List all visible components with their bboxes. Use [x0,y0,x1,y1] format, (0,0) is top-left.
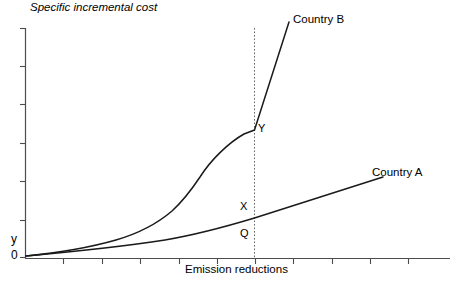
series-label-country-b: Country B [293,14,344,26]
annotation-point-q: Q [240,228,249,239]
y-axis-tick-label-zero: 0 [11,249,18,261]
x-axis-label: Emission reductions [185,264,288,276]
chart-title: Specific incremental cost [30,2,157,14]
chart-plot-area [0,0,469,284]
annotation-point-y: Y [258,123,265,134]
country-b-curve-poly-draft [26,103,255,256]
country-a-curve [26,177,383,256]
country-b-curve-alt [26,123,255,256]
series-label-country-a: Country A [372,167,423,179]
y-axis-ticks [20,29,25,258]
y-axis-tick-label-y: y [11,233,17,245]
country-b-curve [26,22,289,256]
annotation-point-x: X [240,201,247,212]
chart-container: Specific incremental cost Emission reduc… [0,0,469,284]
